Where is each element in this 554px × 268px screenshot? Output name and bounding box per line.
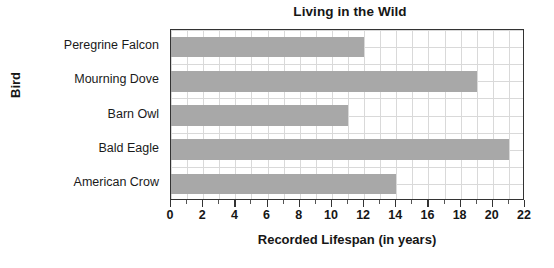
x-tick-minor: [411, 200, 412, 204]
x-tick-minor: [476, 200, 477, 204]
gridline-horizontal: [171, 167, 523, 168]
x-tick-major: [492, 200, 493, 207]
bar: [171, 139, 509, 160]
bar-chart-figure: Living in the Wild Bird Peregrine Falcon…: [0, 0, 554, 268]
x-tick-minor: [379, 200, 380, 204]
y-axis-category-label: Barn Owl: [108, 107, 159, 121]
gridline-vertical: [396, 30, 397, 199]
gridline-horizontal: [171, 64, 523, 65]
x-tick-minor: [315, 200, 316, 204]
gridline-vertical: [428, 30, 429, 199]
bar: [171, 71, 477, 92]
x-tick-minor: [283, 200, 284, 204]
gridline-vertical: [461, 30, 462, 199]
x-tick-major: [427, 200, 428, 207]
x-tick-major: [363, 200, 364, 207]
x-tick-major: [460, 200, 461, 207]
bar: [171, 37, 364, 58]
plot-area: [170, 29, 524, 200]
x-tick-major: [202, 200, 203, 207]
x-axis-ticks: [170, 200, 524, 208]
bar: [171, 174, 396, 195]
x-tick-major: [299, 200, 300, 207]
y-axis-category-label: Mourning Dove: [74, 72, 159, 86]
x-tick-major: [267, 200, 268, 207]
x-tick-minor: [508, 200, 509, 204]
gridline-horizontal: [171, 30, 523, 31]
y-axis-category-labels: Peregrine FalconMourning DoveBarn OwlBal…: [0, 29, 165, 200]
gridline-vertical: [412, 30, 413, 199]
x-axis-title: Recorded Lifespan (in years): [170, 232, 524, 247]
x-axis-tick-labels: 0246810121416182022: [170, 208, 524, 226]
x-axis-tick-label: 22: [504, 208, 544, 222]
y-axis-category-label: American Crow: [74, 175, 159, 189]
x-tick-major: [331, 200, 332, 207]
x-tick-minor: [347, 200, 348, 204]
x-tick-major: [234, 200, 235, 207]
y-axis-category-label: Peregrine Falcon: [64, 38, 159, 52]
x-tick-minor: [250, 200, 251, 204]
chart-title: Living in the Wild: [175, 4, 525, 19]
x-tick-major: [170, 200, 171, 207]
gridline-horizontal: [171, 133, 523, 134]
gridline-horizontal: [171, 98, 523, 99]
x-tick-minor: [186, 200, 187, 204]
x-tick-minor: [218, 200, 219, 204]
y-axis-category-label: Bald Eagle: [99, 141, 159, 155]
gridline-vertical: [509, 30, 510, 199]
gridline-vertical: [477, 30, 478, 199]
x-tick-major: [395, 200, 396, 207]
gridline-vertical: [493, 30, 494, 199]
bar: [171, 105, 348, 126]
x-tick-major: [524, 200, 525, 207]
x-tick-minor: [444, 200, 445, 204]
gridline-vertical: [445, 30, 446, 199]
